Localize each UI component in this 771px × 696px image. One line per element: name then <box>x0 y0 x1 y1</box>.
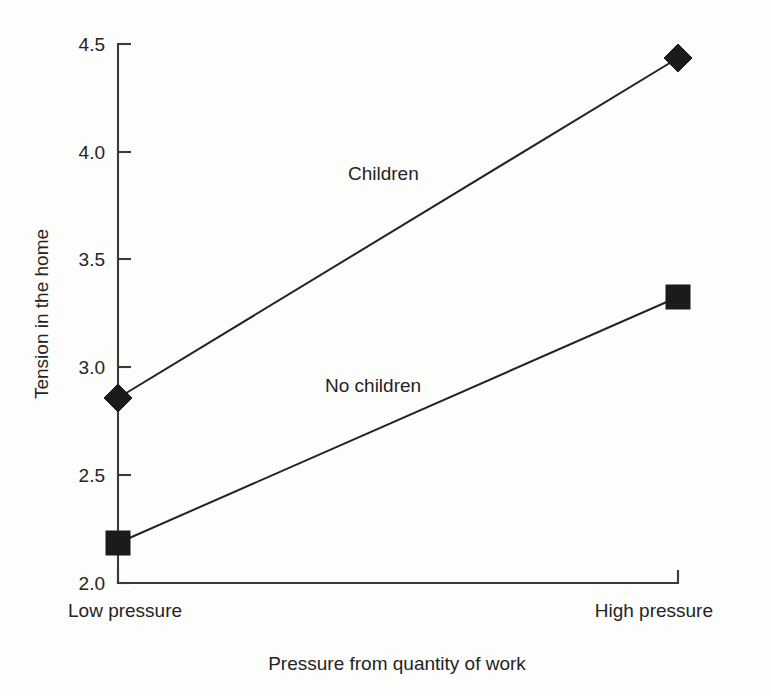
series-annotation-no-children: No children <box>325 375 421 396</box>
y-tick-label-3-0: 3.0 <box>79 357 105 378</box>
y-tick-label-3-5: 3.5 <box>79 249 105 270</box>
y-tick-label-4-5: 4.5 <box>79 34 105 55</box>
series-annotation-children: Children <box>348 163 419 184</box>
series-line-children <box>118 58 678 398</box>
y-tick-label-2-0: 2.0 <box>79 573 105 594</box>
data-point-no-children-low <box>106 531 130 555</box>
x-category-label-high-pressure: High pressure <box>595 600 713 621</box>
series-line-no-children <box>118 297 678 543</box>
data-point-no-children-high <box>666 285 690 309</box>
y-tick-label-4-0: 4.0 <box>79 142 105 163</box>
y-axis-title: Tension in the home <box>31 229 52 399</box>
x-axis-title: Pressure from quantity of work <box>268 653 526 674</box>
interaction-line-chart: 4.5 4.0 3.5 3.0 2.5 2.0 Low pressure Hig… <box>0 0 771 696</box>
data-point-children-low <box>104 384 132 412</box>
data-point-children-high <box>664 44 692 72</box>
x-category-label-low-pressure: Low pressure <box>68 600 182 621</box>
chart-figure: 4.5 4.0 3.5 3.0 2.5 2.0 Low pressure Hig… <box>0 0 771 696</box>
y-tick-label-2-5: 2.5 <box>79 465 105 486</box>
